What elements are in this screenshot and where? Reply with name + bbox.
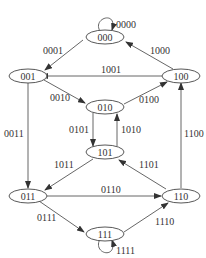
svg-text:101: 101 — [98, 147, 113, 158]
state-diagram: 0000 0001 1000 1001 0010 0100 0011 0101 … — [0, 0, 206, 258]
edge-label: 1001 — [101, 64, 121, 75]
edge-label: 1011 — [54, 159, 74, 170]
edge-label: 0010 — [50, 92, 70, 103]
svg-text:011: 011 — [21, 191, 36, 202]
node-101: 101 — [86, 145, 124, 159]
node-000: 000 — [86, 30, 124, 44]
edge-label: 0110 — [101, 184, 121, 195]
edge-label: 1101 — [139, 159, 159, 170]
edge-label: 0100 — [139, 94, 159, 105]
edge-label: 1110 — [155, 216, 174, 227]
edge-label: 1111 — [116, 245, 135, 256]
node-100: 100 — [162, 69, 200, 83]
svg-text:111: 111 — [98, 229, 112, 240]
svg-text:001: 001 — [21, 71, 36, 82]
node-110: 110 — [162, 189, 200, 203]
edge-label: 0000 — [116, 19, 136, 30]
edge-label: 0001 — [43, 45, 63, 56]
svg-text:000: 000 — [98, 32, 113, 43]
edge-000-000 — [98, 18, 112, 31]
edges: 0000 0001 1000 1001 0010 0100 0011 0101 … — [4, 18, 204, 256]
svg-text:110: 110 — [174, 191, 189, 202]
edge-label: 0101 — [69, 124, 89, 135]
node-001: 001 — [9, 69, 47, 83]
edge-label: 1000 — [150, 45, 170, 56]
edge-label: 0111 — [37, 212, 56, 223]
svg-text:100: 100 — [174, 71, 189, 82]
edge-label: 1100 — [184, 128, 204, 139]
node-011: 011 — [9, 189, 47, 203]
edge-label: 1010 — [121, 124, 141, 135]
node-010: 010 — [86, 100, 124, 114]
svg-text:010: 010 — [98, 102, 113, 113]
node-111: 111 — [86, 227, 124, 241]
edge-label: 0011 — [4, 128, 24, 139]
